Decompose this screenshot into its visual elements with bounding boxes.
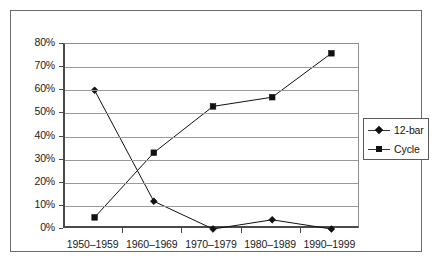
data-point-marker: [92, 215, 98, 221]
chart-screenshot: 80%70%60%50%40%30%20%10%0%1950–19591960–…: [0, 0, 434, 267]
y-axis-tick-mark: [59, 205, 63, 206]
legend-entry-12-bar: 12-bar: [368, 123, 424, 137]
plot-area: [63, 43, 359, 228]
data-point-marker: [151, 150, 157, 156]
y-axis-tick-label: 40%: [15, 130, 55, 141]
y-axis-tick-label: 30%: [15, 153, 55, 164]
data-point-marker: [210, 104, 216, 110]
gridline: [65, 206, 358, 207]
y-axis-tick-label: 60%: [15, 83, 55, 94]
x-axis-tick-mark: [122, 228, 123, 233]
y-axis-tick-mark: [59, 112, 63, 113]
gridline: [65, 137, 358, 138]
x-axis-tick-label: 1980–1989: [241, 239, 300, 250]
chart-legend: 12-bar Cycle: [363, 118, 429, 160]
x-axis-tick-mark: [241, 228, 242, 233]
x-axis-tick-label: 1970–1979: [181, 239, 240, 250]
x-axis-tick-mark: [181, 228, 182, 233]
data-point-marker: [329, 51, 335, 57]
x-axis-tick-mark: [300, 228, 301, 233]
y-axis-tick-mark: [59, 89, 63, 90]
y-axis-tick-mark: [59, 159, 63, 160]
y-axis-tick-mark: [59, 136, 63, 137]
y-axis-tick-label: 0%: [15, 222, 55, 233]
square-marker-icon: [368, 143, 390, 155]
y-axis-tick-mark: [59, 43, 63, 44]
legend-label-cycle: Cycle: [394, 143, 420, 155]
data-point-marker: [210, 226, 217, 233]
legend-entry-cycle: Cycle: [368, 142, 420, 156]
gridline: [65, 160, 358, 161]
data-point-marker: [328, 226, 335, 233]
y-axis-tick-label: 20%: [15, 176, 55, 187]
data-point-marker: [150, 198, 157, 205]
gridline: [65, 67, 358, 68]
y-axis-tick-mark: [59, 228, 63, 229]
data-point-marker: [269, 216, 276, 223]
data-point-marker: [269, 94, 275, 100]
y-axis-tick-mark: [59, 66, 63, 67]
gridline: [65, 90, 358, 91]
x-axis-tick-label: 1960–1969: [122, 239, 181, 250]
y-axis-tick-label: 10%: [15, 199, 55, 210]
y-axis-tick-mark: [59, 182, 63, 183]
x-axis-tick-label: 1990–1999: [300, 239, 359, 250]
series-line-cycle: [95, 53, 332, 217]
gridline: [65, 183, 358, 184]
y-axis-tick-label: 50%: [15, 106, 55, 117]
figure-frame: 80%70%60%50%40%30%20%10%0%1950–19591960–…: [10, 10, 422, 252]
y-axis-tick-label: 80%: [15, 37, 55, 48]
legend-label-12-bar: 12-bar: [394, 124, 424, 136]
y-axis-tick-label: 70%: [15, 60, 55, 71]
x-axis-tick-label: 1950–1959: [63, 239, 122, 250]
diamond-marker-icon: [368, 124, 390, 136]
gridline: [65, 113, 358, 114]
